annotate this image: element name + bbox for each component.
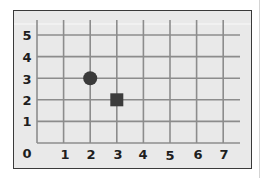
horizontal-grid-lines <box>37 35 240 143</box>
vertical-grid-lines <box>37 20 223 143</box>
square-point <box>110 93 123 106</box>
x-label-6: 6 <box>193 148 202 161</box>
x-label-7: 7 <box>219 148 228 161</box>
x-label-1: 1 <box>60 148 69 161</box>
y-label-4: 4 <box>22 51 31 64</box>
y-label-1: 1 <box>22 115 31 128</box>
origin-label: 0 <box>22 147 31 160</box>
x-label-2: 2 <box>86 148 95 161</box>
circle-point <box>83 71 97 85</box>
x-label-5: 5 <box>165 149 174 162</box>
x-label-4: 4 <box>138 148 147 161</box>
y-label-5: 5 <box>22 29 31 42</box>
x-label-3: 3 <box>113 148 122 161</box>
y-label-2: 2 <box>22 94 31 107</box>
y-label-3: 3 <box>22 73 31 86</box>
